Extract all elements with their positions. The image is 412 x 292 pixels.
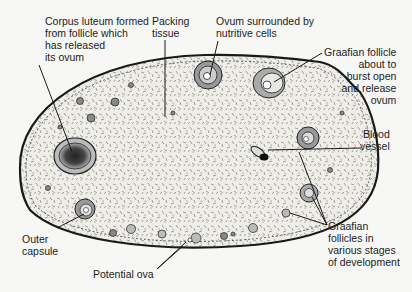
graafian-follicle-left <box>75 199 95 219</box>
label-packing-tissue: Packing tissue <box>152 15 189 39</box>
label-potential-ova: Potential ova <box>93 268 154 280</box>
label-graafian-follicle-burst: Graafian follicle about to burst open an… <box>324 46 396 106</box>
corpus-luteum <box>54 138 96 174</box>
label-blood-vessel: Blood vessel <box>360 128 390 152</box>
graafian-follicle-lower-right <box>300 184 318 202</box>
label-corpus-luteum: Corpus luteum formed from follicle which… <box>45 15 149 63</box>
label-ovum-nutritive-cells: Ovum surrounded by nutritive cells <box>216 15 314 39</box>
graafian-follicle-right <box>297 127 319 149</box>
label-outer-capsule: Outer capsule <box>22 233 58 257</box>
ovum-with-nutritive-cells <box>194 61 222 89</box>
graafian-follicle-mature <box>253 68 285 98</box>
label-graafian-follicles-stages: Graafian follicles in various stages of … <box>328 220 400 268</box>
